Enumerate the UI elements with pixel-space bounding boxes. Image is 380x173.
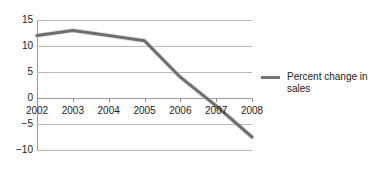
y-tick-label: 5 [3,67,33,77]
series-line-shadow [37,30,252,137]
chart-legend: Percent change in sales [261,71,380,94]
x-tick-label: 2002 [17,105,57,116]
x-tick-2008 [252,98,253,102]
y-tick-label: −5 [3,119,33,129]
line-chart: 151050−5−10 2002200320042005200620072008… [0,0,380,173]
y-tick-label: 15 [3,15,33,25]
x-tick-label: 2003 [53,105,93,116]
x-tick-label: 2007 [196,105,236,116]
y-axis-labels: 151050−5−10 [0,20,33,150]
gridline-y--10 [37,150,252,151]
y-tick-label: 10 [3,41,33,51]
legend-color-swatch [261,76,280,79]
x-tick-2005 [145,98,146,102]
x-axis-ticks [37,98,252,103]
y-tick-label: 0 [3,93,33,103]
plot-area [37,20,252,150]
x-axis-labels: 2002200320042005200620072008 [37,105,252,119]
x-tick-label: 2008 [232,105,272,116]
x-tick-2002 [37,98,38,102]
x-tick-label: 2004 [89,105,129,116]
x-tick-label: 2005 [125,105,165,116]
x-tick-2007 [216,98,217,102]
x-tick-2004 [109,98,110,102]
x-tick-2003 [73,98,74,102]
series-line-percent-change-in-sales [37,20,252,150]
x-tick-2006 [180,98,181,102]
series-line-path [37,30,252,137]
y-tick-label: −10 [3,145,33,155]
legend-label: Percent change in sales [287,71,380,94]
x-tick-label: 2006 [160,105,200,116]
